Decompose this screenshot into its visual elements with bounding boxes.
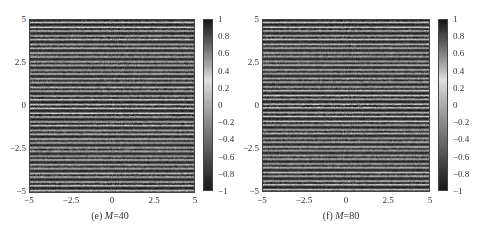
caption-var: M: [335, 210, 343, 221]
colorbar-tick: 1: [218, 15, 223, 24]
colorbar-tick: −0.6: [453, 153, 469, 162]
caption-value: =40: [113, 210, 129, 221]
x-tick: 2.5: [139, 196, 169, 205]
x-tick: 5: [180, 196, 210, 205]
x-tick: −5: [247, 196, 277, 205]
colorbar-tick: 0.6: [218, 49, 229, 58]
y-tick: −2.5: [4, 144, 26, 153]
caption-label: (f): [323, 210, 333, 221]
y-tick: −5: [237, 187, 259, 196]
x-tick: −5: [14, 196, 44, 205]
x-tick: 2.5: [373, 196, 403, 205]
y-tick: 0: [237, 101, 259, 110]
colorbar-tick: −0.4: [218, 135, 234, 144]
colorbar-tick: −0.8: [218, 170, 234, 179]
panel-e: 5 2.5 0 −2.5 −5 −5 −2.5 0 2.5 5 10.80.60…: [0, 0, 240, 227]
colorbar-tick: −0.6: [218, 153, 234, 162]
colorbar-tick: 0.2: [453, 84, 464, 93]
colorbar-tick: 0.8: [453, 32, 464, 41]
y-tick: 0: [4, 101, 26, 110]
colorbar-tick: 0: [218, 101, 223, 110]
y-tick: −5: [4, 187, 26, 196]
colorbar-canvas-e: [204, 20, 212, 190]
caption-value: =80: [344, 210, 360, 221]
caption-f: (f) M=80: [281, 210, 401, 221]
colorbar-tick: 1: [453, 15, 458, 24]
colorbar-canvas-f: [439, 20, 447, 190]
colorbar-tick: −0.4: [453, 135, 469, 144]
panel-f: 5 2.5 0 −2.5 −5 −5 −2.5 0 2.5 5 10.80.60…: [233, 0, 473, 227]
caption-var: M: [105, 210, 113, 221]
colorbar-tick: −1: [218, 187, 228, 196]
y-tick: 5: [4, 15, 26, 24]
heatmap-plot-f: [262, 19, 430, 192]
caption-label: (e): [91, 210, 102, 221]
colorbar-tick: −0.2: [218, 118, 234, 127]
heatmap-canvas-e: [30, 20, 194, 192]
colorbar-tick: 0.4: [453, 67, 464, 76]
colorbar-tick: 0.8: [218, 32, 229, 41]
colorbar-tick: 0.6: [453, 49, 464, 58]
colorbar-tick: 0: [453, 101, 458, 110]
colorbar-f: [438, 19, 448, 191]
colorbar-tick: 0.2: [218, 84, 229, 93]
x-tick: −2.5: [289, 196, 319, 205]
colorbar-tick: −0.2: [453, 118, 469, 127]
y-tick: 2.5: [4, 58, 26, 67]
x-tick: 0: [97, 196, 127, 205]
heatmap-canvas-f: [263, 20, 429, 191]
colorbar-e: [203, 19, 213, 191]
caption-e: (e) M=40: [50, 210, 170, 221]
colorbar-tick: −1: [453, 187, 463, 196]
x-tick: −2.5: [56, 196, 86, 205]
colorbar-tick: −0.8: [453, 170, 469, 179]
y-tick: −2.5: [237, 144, 259, 153]
heatmap-plot-e: [29, 19, 195, 193]
y-tick: 5: [237, 15, 259, 24]
y-tick: 2.5: [237, 58, 259, 67]
x-tick: 0: [331, 196, 361, 205]
colorbar-tick: 0.4: [218, 67, 229, 76]
x-tick: 5: [415, 196, 445, 205]
